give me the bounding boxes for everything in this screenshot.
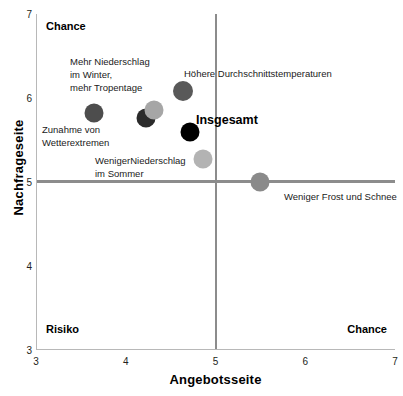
point-annotation: Mehr Niederschlag [70, 56, 150, 69]
x-axis-ticks: 3 4 5 6 7 [36, 356, 395, 370]
point-annotation: mehr Tropentage [70, 82, 142, 95]
data-point-marker [193, 150, 212, 169]
x-tick-6: 6 [302, 356, 308, 367]
y-tick-7: 7 [6, 9, 32, 20]
data-point-marker [251, 173, 270, 192]
y-tick-3: 3 [6, 345, 32, 356]
x-tick-3: 3 [33, 356, 39, 367]
x-axis-title: Angebotsseite [36, 372, 395, 387]
quadrant-label-bottom-right: Chance [347, 323, 387, 335]
point-annotation: Zunahme von [42, 124, 100, 137]
data-point-marker [85, 104, 104, 123]
quadrant-divider-horizontal [37, 180, 395, 183]
point-annotation: Höhere Durchschnittstemperaturen [184, 68, 332, 81]
x-tick-4: 4 [123, 356, 129, 367]
data-point-marker [145, 100, 164, 119]
point-annotation: Insgesamt [196, 113, 258, 127]
y-axis-title: Nachfrageseite [11, 88, 26, 248]
data-point-marker [173, 81, 193, 101]
quadrant-label-top-left: Chance [46, 20, 86, 32]
x-tick-7: 7 [392, 356, 398, 367]
point-annotation: WenigerNiederschlag [95, 155, 186, 168]
point-annotation: Wetterextremen [42, 137, 109, 150]
point-annotation: im Winter, [70, 69, 112, 82]
quadrant-label-bottom-left: Risiko [46, 323, 79, 335]
y-tick-4: 4 [6, 261, 32, 272]
scatter-chart: 7 6 5 4 3 Chance Risiko Chance 3 4 5 6 7… [0, 0, 403, 396]
x-tick-5: 5 [213, 356, 219, 367]
point-annotation: Weniger Frost und Schnee [284, 191, 397, 204]
point-annotation: im Sommer [95, 168, 144, 181]
